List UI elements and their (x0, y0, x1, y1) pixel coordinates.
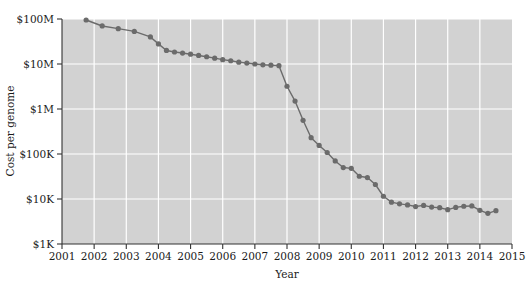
cost-per-genome-line-chart: $1K$10K$100K$1M$10M$100M 200120022003200… (0, 0, 529, 286)
data-point (429, 205, 434, 210)
x-axis-title: Year (274, 268, 299, 280)
data-point (292, 98, 297, 103)
x-tick-label: 2013 (434, 250, 461, 262)
x-tick-label: 2011 (370, 250, 397, 262)
data-point (493, 208, 498, 213)
y-tick-label: $1K (33, 238, 54, 250)
data-point (260, 62, 265, 67)
data-point (485, 211, 490, 216)
data-point (148, 34, 153, 39)
y-tick-label: $100M (17, 13, 55, 25)
data-point (284, 84, 289, 89)
x-tick-label: 2006 (209, 250, 236, 262)
data-point (325, 150, 330, 155)
x-tick-label: 2007 (241, 250, 268, 262)
data-point (84, 17, 89, 22)
data-point (220, 57, 225, 62)
data-point (357, 174, 362, 179)
y-tick-label: $100K (19, 148, 54, 160)
data-point (453, 205, 458, 210)
data-point (461, 204, 466, 209)
y-axis-title: Cost per genome (4, 86, 16, 177)
data-point (212, 56, 217, 61)
data-point (469, 203, 474, 208)
data-point (228, 58, 233, 63)
data-point (172, 49, 177, 54)
x-tick-label: 2008 (274, 250, 301, 262)
data-point (437, 205, 442, 210)
data-point (252, 61, 257, 66)
data-point (244, 60, 249, 65)
x-tick-label: 2009 (306, 250, 333, 262)
data-point (132, 29, 137, 34)
data-point (116, 26, 121, 31)
data-point (477, 208, 482, 213)
data-point (381, 194, 386, 199)
data-point (365, 175, 370, 180)
x-tick-label: 2005 (177, 250, 204, 262)
x-tick-label: 2003 (113, 250, 140, 262)
data-point (268, 63, 273, 68)
y-tick-label: $10M (23, 58, 54, 70)
data-point (445, 207, 450, 212)
data-point (389, 200, 394, 205)
y-tick-label: $1M (30, 103, 54, 115)
data-point (188, 52, 193, 57)
data-point (300, 118, 305, 123)
x-tick-label: 2010 (338, 250, 365, 262)
data-point (333, 158, 338, 163)
data-point (204, 54, 209, 59)
data-point (397, 201, 402, 206)
data-point (164, 48, 169, 53)
x-tick-label: 2014 (466, 250, 493, 262)
data-point (405, 202, 410, 207)
data-point (421, 203, 426, 208)
data-point (276, 63, 281, 68)
x-tick-label: 2004 (145, 250, 172, 262)
data-point (236, 60, 241, 65)
data-point (180, 50, 185, 55)
x-tick-label: 2015 (499, 250, 526, 262)
y-tick-label: $10K (26, 193, 54, 205)
data-point (156, 41, 161, 46)
x-tick-label: 2001 (49, 250, 76, 262)
x-tick-label: 2012 (402, 250, 429, 262)
data-point (349, 166, 354, 171)
data-point (309, 135, 314, 140)
data-point (341, 165, 346, 170)
data-point (317, 143, 322, 148)
data-point (373, 182, 378, 187)
data-point (196, 53, 201, 58)
x-tick-label: 2002 (81, 250, 108, 262)
data-point (100, 23, 105, 28)
data-point (413, 204, 418, 209)
chart-figure: $1K$10K$100K$1M$10M$100M 200120022003200… (0, 0, 529, 286)
